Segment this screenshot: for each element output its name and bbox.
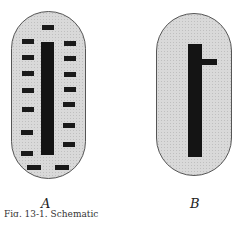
fragment <box>21 151 33 156</box>
fragment <box>22 107 34 112</box>
fragment <box>55 165 69 170</box>
fragment <box>63 142 75 147</box>
fragment <box>21 130 33 135</box>
fragment <box>63 102 75 107</box>
fragment <box>64 72 76 77</box>
fragment <box>27 165 41 170</box>
fragment <box>22 55 34 60</box>
central-bar-b <box>188 44 202 157</box>
fragment <box>64 41 76 46</box>
fragment <box>64 56 76 61</box>
fragment <box>22 88 34 93</box>
fragment <box>42 25 54 30</box>
fragment <box>64 87 76 92</box>
fragment <box>22 71 34 76</box>
fragment <box>63 123 75 128</box>
side-branch-b <box>202 59 217 65</box>
central-bar-a <box>41 42 54 155</box>
panel-label-b: B <box>190 196 200 211</box>
fragment <box>22 39 34 44</box>
figure-caption: Fig. 13-1. Schematic <box>4 209 98 217</box>
